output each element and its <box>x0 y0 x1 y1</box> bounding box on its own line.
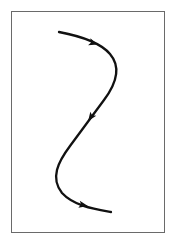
direction-arrows <box>78 38 99 209</box>
s-curve-path <box>56 32 116 212</box>
s-curve-diagram <box>0 0 175 241</box>
